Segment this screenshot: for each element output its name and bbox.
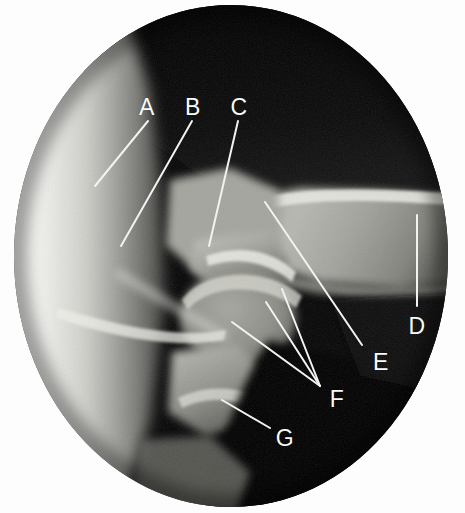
label-b: B	[185, 96, 201, 119]
radiograph-figure: ABCDEFG	[0, 0, 465, 513]
label-d: D	[408, 315, 425, 338]
label-f: F	[330, 388, 345, 411]
label-g: G	[276, 427, 294, 450]
label-c: C	[230, 96, 247, 119]
xray-image	[0, 0, 465, 513]
label-e: E	[373, 351, 389, 374]
label-a: A	[139, 96, 155, 119]
